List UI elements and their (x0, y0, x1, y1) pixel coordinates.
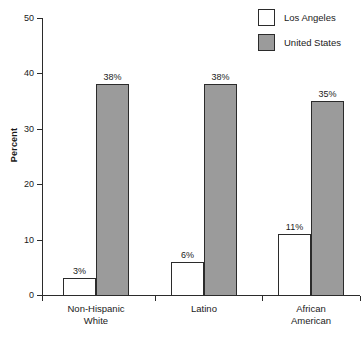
x-tick-mark (262, 296, 263, 301)
legend-swatch-united-states (258, 34, 275, 51)
x-category-label-line: American (256, 315, 364, 327)
x-category-label: Non-HispanicWhite (41, 303, 151, 327)
x-category-label-line: Latino (149, 303, 259, 315)
bar-value-label: 38% (198, 73, 243, 82)
y-tick-label: 50 (0, 14, 34, 23)
y-tick-mark (37, 129, 43, 130)
y-tick-label: 10 (0, 236, 34, 245)
bar-united-states-latino (204, 84, 237, 296)
legend-swatch-los-angeles (258, 9, 275, 26)
bar-value-label: 35% (305, 90, 350, 99)
x-category-label-line: White (41, 315, 151, 327)
x-category-label-line: African (256, 303, 364, 315)
y-tick-label: 0 (0, 291, 34, 300)
y-tick-mark (37, 240, 43, 241)
y-tick-mark (37, 184, 43, 185)
legend-label-los-angeles: Los Angeles (284, 13, 336, 23)
bar-united-states-non-hispanic-white (96, 84, 129, 296)
y-tick-label: 20 (0, 180, 34, 189)
bar-los-angeles-african-american (278, 234, 311, 296)
y-tick-label: 40 (0, 69, 34, 78)
bar-los-angeles-latino (171, 262, 204, 296)
x-tick-mark (155, 296, 156, 301)
x-category-label: AfricanAmerican (256, 303, 364, 327)
chart-legend: Los Angeles United States (258, 9, 341, 59)
x-category-label-line: Non-Hispanic (41, 303, 151, 315)
bar-united-states-african-american (311, 101, 344, 296)
y-tick-mark (37, 18, 43, 19)
bar-los-angeles-non-hispanic-white (63, 278, 96, 296)
y-axis-line (42, 18, 43, 295)
x-tick-mark (42, 296, 43, 301)
x-tick-mark (360, 296, 361, 301)
legend-label-united-states: United States (284, 38, 341, 48)
y-tick-label: 30 (0, 125, 34, 134)
bar-value-label: 38% (90, 73, 135, 82)
y-tick-mark (37, 73, 43, 74)
legend-item-los-angeles: Los Angeles (258, 9, 341, 26)
x-category-label: Latino (149, 303, 259, 315)
legend-item-united-states: United States (258, 34, 341, 51)
bar-chart: Percent 01020304050 3%6%11%38%38%35% Non… (0, 0, 364, 337)
